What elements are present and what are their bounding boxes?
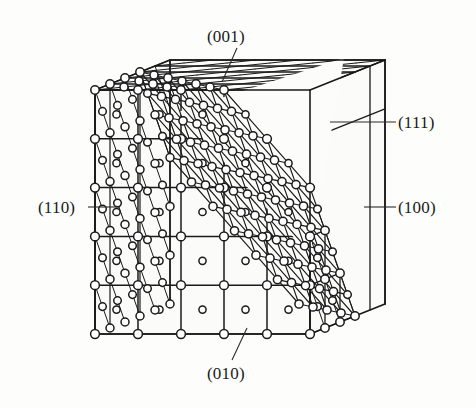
plane-label-100: (100): [398, 198, 436, 218]
plane-label-110: (110): [38, 198, 75, 218]
plane-label-010: (010): [207, 364, 245, 384]
plane-label-111: (111): [398, 113, 435, 133]
crystal-figure: (001) (010) (110) (100) (111): [0, 0, 476, 408]
plane-label-001: (001): [207, 27, 245, 47]
